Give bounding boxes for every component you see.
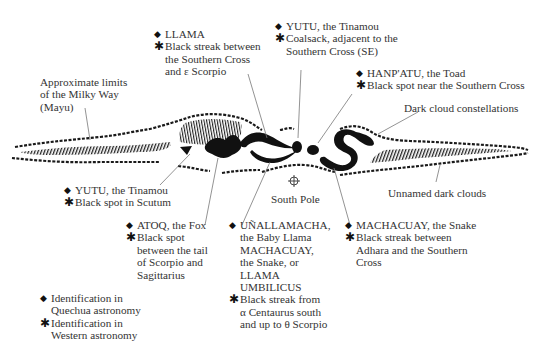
label-text: Unnamed dark clouds <box>388 187 486 199</box>
milky-way-limits-label: Approximate limits of the Milky Way (May… <box>40 76 127 113</box>
south-pole-label: South Pole <box>271 193 320 205</box>
western-line: the Southern Cross <box>165 53 261 65</box>
western-line: Black spot <box>137 231 208 243</box>
western-line: Sagittarius <box>137 269 208 281</box>
south-pole-icon <box>288 175 300 187</box>
western-line: Cross <box>356 256 468 268</box>
western-star-icon: ✱ <box>356 79 367 91</box>
quechua-name: LLAMA <box>165 28 205 40</box>
quechua-diamond-icon: ◆ <box>229 219 240 231</box>
dark-cloud-constellations-label: Dark cloud constellations <box>404 102 518 114</box>
quechua-name: YUTU, the Tinamou <box>286 20 379 32</box>
label-line: (Mayu) <box>40 101 127 113</box>
yutu-scutum-spot <box>180 146 192 155</box>
annotation-unallamacha: ◆ UÑALLAMACHA, the Baby Llama MACHACUAY,… <box>229 219 330 331</box>
western-line: Southern Cross (SE) <box>286 45 398 57</box>
quechua-name: HANP'ATU, the Toad <box>367 67 465 79</box>
western-line: Black streak between <box>165 40 261 52</box>
quechua-name: YUTU, the Tinamou <box>75 184 168 196</box>
western-line: Black spot in Scutum <box>75 196 171 208</box>
machacuay-snake <box>320 129 374 171</box>
label-line: of the Milky Way <box>40 88 127 100</box>
annotation-yutu-scutum: ◆YUTU, the Tinamou ✱Black spot in Scutum <box>64 184 171 209</box>
annotation-llama: ◆LLAMA ✱ Black streak between the Southe… <box>154 28 261 78</box>
unnamed-dark-clouds-label: Unnamed dark clouds <box>388 187 486 199</box>
annotation-atoq: ◆ATOQ, the Fox ✱ Black spot between the … <box>126 219 208 281</box>
legend-line: Identification in <box>51 317 137 329</box>
quechua-name: MACHACUAY, the Snake <box>356 219 476 231</box>
western-star-icon: ✱ <box>345 231 356 243</box>
western-line: Black streak from <box>240 293 327 305</box>
western-star-icon: ✱ <box>64 196 75 208</box>
western-line: Black streak between <box>356 231 468 243</box>
western-star-icon: ✱ <box>229 293 240 305</box>
western-line: Black spot near the Southern Cross <box>367 79 525 91</box>
quechua-line: UMBILICUS <box>240 281 330 293</box>
quechua-line: the Baby Llama <box>240 231 330 243</box>
western-line: Adhara and the Southern <box>356 244 468 256</box>
legend-quechua: ◆ Identification in Quechua astronomy <box>40 292 141 317</box>
western-line: between the tail <box>137 244 208 256</box>
hatched-star-cloud-right <box>370 148 512 163</box>
western-line: α Centaurus south <box>240 306 327 318</box>
milky-way-lower-boundary <box>12 153 528 175</box>
label-text: Dark cloud constellations <box>404 102 518 114</box>
legend: ◆ Identification in Quechua astronomy ✱ … <box>40 292 141 342</box>
western-star-icon: ✱ <box>154 40 165 52</box>
label-text: South Pole <box>271 193 320 205</box>
clipped-caption-edge <box>0 352 542 358</box>
quechua-line: LLAMA <box>240 269 330 281</box>
western-star-icon: ✱ <box>40 317 51 329</box>
western-line: and up to θ Scorpio <box>240 318 327 330</box>
legend-line: Western astronomy <box>51 329 137 341</box>
legend-line: Identification in <box>51 292 141 304</box>
yutu-coalsack-spot <box>292 141 302 153</box>
western-star-icon: ✱ <box>126 231 137 243</box>
label-line: Approximate limits <box>40 76 127 88</box>
hanpatu-spot <box>307 145 319 155</box>
llama-streak <box>240 132 296 148</box>
annotation-yutu-coalsack: ◆YUTU, the Tinamou ✱ Coalsack, adjacent … <box>275 20 398 57</box>
western-line: Coalsack, adjacent to the <box>286 32 398 44</box>
western-line: and ε Scorpio <box>165 65 261 77</box>
western-line: of Scorpio and <box>137 256 208 268</box>
annotation-machacuay: ◆MACHACUAY, the Snake ✱ Black streak bet… <box>345 219 476 269</box>
quechua-line: MACHACUAY, <box>240 244 330 256</box>
quechua-line: UÑALLAMACHA, <box>240 219 330 231</box>
unallamacha-streak <box>250 150 298 163</box>
quechua-line: the Snake, or <box>240 256 330 268</box>
quechua-diamond-icon: ◆ <box>40 292 51 304</box>
legend-western: ✱ Identification in Western astronomy <box>40 317 141 342</box>
quechua-name: ATOQ, the Fox <box>137 219 206 231</box>
western-star-icon: ✱ <box>275 32 286 44</box>
legend-line: Quechua astronomy <box>51 304 141 316</box>
annotation-hanpatu: ◆HANP'ATU, the Toad ✱Black spot near the… <box>356 67 525 92</box>
